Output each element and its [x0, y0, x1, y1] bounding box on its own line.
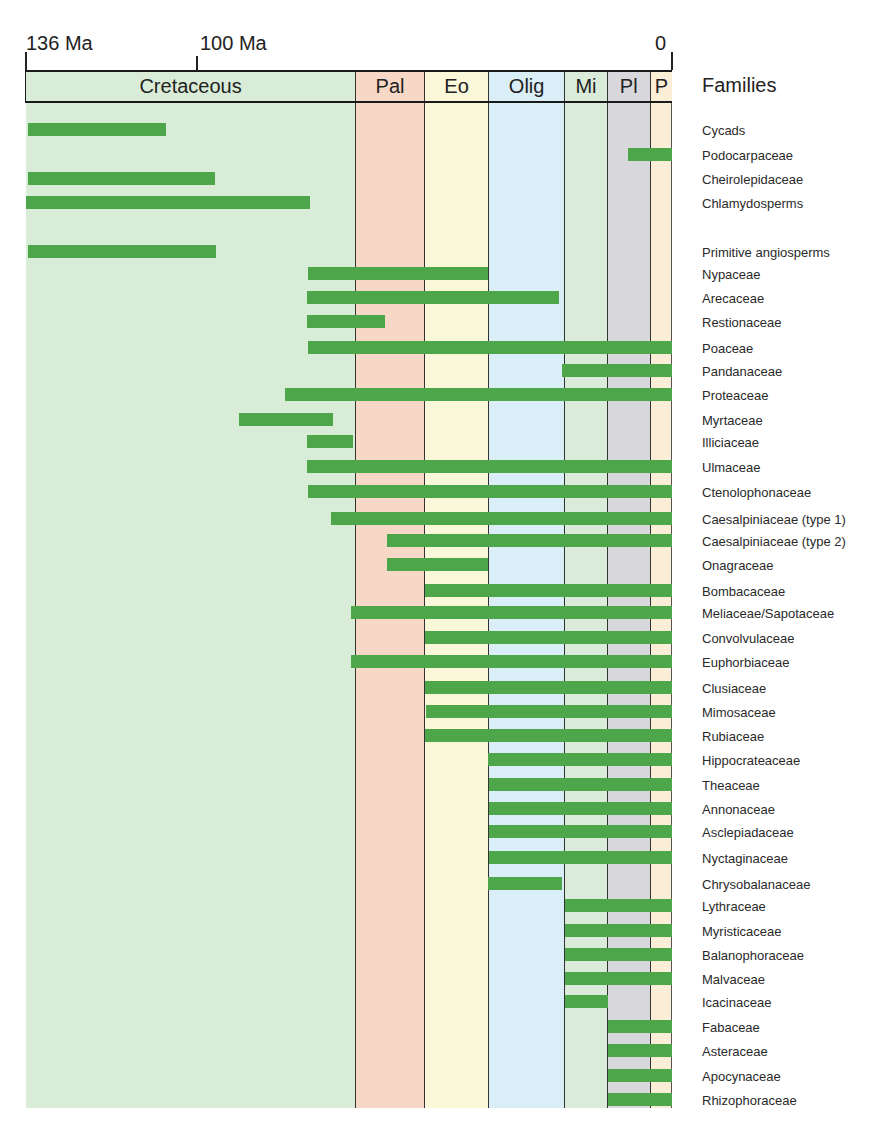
range-bar — [488, 877, 562, 890]
range-bar — [425, 681, 672, 694]
tick-label-100: 100 Ma — [200, 32, 267, 55]
family-label: Primitive angiosperms — [702, 245, 830, 260]
tick-label-0: 0 — [655, 32, 666, 55]
family-label: Rubiaceae — [702, 729, 764, 744]
family-label: Lythraceae — [702, 899, 766, 914]
family-label: Convolvulaceae — [702, 631, 795, 646]
families-title: Families — [702, 74, 776, 97]
family-label: Nypaceae — [702, 267, 761, 282]
range-bar — [26, 196, 310, 209]
period-header-p: P — [651, 72, 672, 101]
family-label: Ctenolophonaceae — [702, 485, 811, 500]
family-label: Nyctaginaceae — [702, 851, 788, 866]
family-label: Annonaceae — [702, 802, 775, 817]
range-bar — [489, 851, 672, 864]
period-header-pl: Pl — [608, 72, 651, 101]
period-header-mi: Mi — [565, 72, 608, 101]
period-header-eo: Eo — [425, 72, 489, 101]
range-bar — [307, 435, 353, 448]
family-label: Pandanaceae — [702, 364, 782, 379]
range-bar — [608, 1044, 672, 1057]
family-label: Poaceae — [702, 341, 753, 356]
family-label: Chrysobalanaceae — [702, 877, 810, 892]
range-bar — [387, 558, 488, 571]
family-label: Ulmaceae — [702, 460, 761, 475]
range-bar — [425, 729, 672, 742]
period-header-olig: Olig — [489, 72, 565, 101]
family-label: Fabaceae — [702, 1020, 760, 1035]
range-bar — [351, 606, 672, 619]
tick-label-136: 136 Ma — [26, 32, 93, 55]
family-label: Malvaceae — [702, 972, 765, 987]
family-label: Restionaceae — [702, 315, 782, 330]
range-bar — [565, 899, 672, 912]
period-header-pal: Pal — [356, 72, 425, 101]
range-bar — [489, 825, 672, 838]
range-bar — [239, 413, 333, 426]
range-bar — [488, 753, 672, 766]
family-label: Cheirolepidaceae — [702, 172, 803, 187]
family-label: Mimosaceae — [702, 705, 776, 720]
tick-mark-100 — [196, 56, 198, 70]
range-bar — [562, 364, 672, 377]
family-label: Apocynaceae — [702, 1069, 781, 1084]
range-bar — [351, 655, 672, 668]
family-label: Bombacaceae — [702, 584, 785, 599]
family-label: Proteaceae — [702, 388, 769, 403]
range-bar — [426, 705, 672, 718]
family-label: Podocarpaceae — [702, 148, 793, 163]
family-label: Euphorbiaceae — [702, 655, 789, 670]
range-bar — [565, 972, 672, 985]
range-bar — [308, 485, 672, 498]
range-bar — [425, 584, 672, 597]
family-label: Balanophoraceae — [702, 948, 804, 963]
family-label: Caesalpiniaceae (type 2) — [702, 534, 846, 549]
period-header-cretaceous: Cretaceous — [26, 72, 356, 101]
family-label: Clusiaceae — [702, 681, 766, 696]
range-bar — [628, 148, 672, 161]
range-bar — [285, 388, 672, 401]
range-bar — [28, 172, 215, 185]
family-label: Myristicaceae — [702, 924, 781, 939]
family-label: Asclepiadaceae — [702, 825, 794, 840]
range-bar — [307, 291, 559, 304]
range-bar — [565, 995, 608, 1008]
range-bar — [608, 1069, 672, 1082]
range-bar — [489, 802, 672, 815]
range-bar — [387, 534, 672, 547]
family-label: Arecaceae — [702, 291, 764, 306]
family-label: Asteraceae — [702, 1044, 768, 1059]
range-bar — [608, 1093, 672, 1106]
range-bar — [307, 460, 672, 473]
family-label: Theaceae — [702, 778, 760, 793]
family-label: Chlamydosperms — [702, 196, 803, 211]
family-label: Myrtaceae — [702, 413, 763, 428]
range-bar — [28, 245, 216, 258]
family-label: Icacinaceae — [702, 995, 771, 1010]
range-bar — [608, 1020, 672, 1033]
family-label: Hippocrateaceae — [702, 753, 800, 768]
range-bar — [331, 512, 672, 525]
family-label: Illiciaceae — [702, 435, 759, 450]
range-bar — [28, 123, 166, 136]
range-bar — [565, 948, 672, 961]
tick-mark-0 — [671, 52, 673, 70]
range-bar — [565, 924, 672, 937]
family-label: Meliaceae/Sapotaceae — [702, 606, 834, 621]
tick-mark-136 — [25, 52, 27, 70]
family-label: Rhizophoraceae — [702, 1093, 797, 1108]
family-label: Caesalpiniaceae (type 1) — [702, 512, 846, 527]
range-bar — [425, 631, 672, 644]
range-bar — [307, 315, 385, 328]
family-label: Onagraceae — [702, 558, 774, 573]
range-bar — [489, 778, 672, 791]
range-bar — [308, 267, 488, 280]
family-label: Cycads — [702, 123, 745, 138]
range-bar — [308, 341, 672, 354]
period-header: CretaceousPalEoOligMiPlP — [25, 70, 672, 103]
